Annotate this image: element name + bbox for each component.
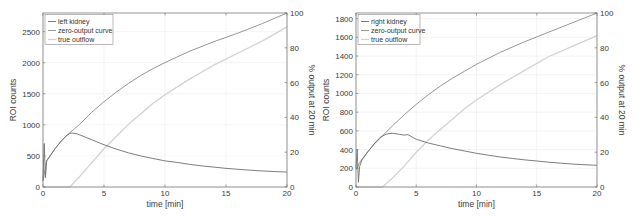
y-tick-label: 0 [36, 183, 41, 192]
y-tick-label: 2000 [22, 59, 40, 68]
x-axis-label: time [min] [458, 199, 495, 209]
y-tick-label: 1200 [335, 71, 353, 80]
legend-label: true outflow [371, 36, 408, 43]
legend: right kidney zero-output curve true outf… [358, 15, 426, 45]
left-kidney-chart: 0510152005001000150020002500020406080100… [8, 9, 317, 209]
y-right-tick-label: 100 [290, 9, 304, 18]
y-right-tick-label: 80 [290, 44, 299, 53]
x-axis-label: time [min] [147, 199, 184, 209]
x-tick-label: 0 [41, 189, 46, 198]
legend-entry-zero-output: zero-output curve [48, 27, 113, 35]
x-tick-label: 5 [414, 189, 419, 198]
legend-label: left kidney [58, 18, 90, 26]
legend-label: true outflow [58, 36, 95, 43]
y-tick-label: 0 [349, 183, 354, 192]
figure: 0510152005001000150020002500020406080100… [0, 0, 637, 219]
x-tick-label: 15 [222, 189, 231, 198]
legend: left kidney zero-output curve true outfl… [45, 15, 113, 45]
x-tick-label: 15 [532, 189, 541, 198]
x-tick-label: 10 [161, 189, 170, 198]
x-tick-label: 10 [472, 189, 481, 198]
y-right-tick-label: 20 [600, 148, 609, 157]
y-tick-label: 2500 [22, 28, 40, 37]
y-right-tick-label: 40 [290, 113, 299, 122]
x-tick-label: 0 [354, 189, 359, 198]
y-tick-label: 800 [340, 108, 354, 117]
legend-label: zero-output curve [371, 27, 426, 35]
y-tick-label: 1000 [335, 89, 353, 98]
legend-label: zero-output curve [58, 27, 113, 35]
y-tick-label: 600 [340, 127, 354, 136]
y-tick-label: 1500 [22, 90, 40, 99]
y-right-tick-label: 0 [600, 183, 605, 192]
y-axis-right-label: % output at 20 min [307, 65, 317, 136]
y-tick-label: 200 [340, 164, 354, 173]
legend-label: right kidney [371, 18, 407, 26]
x-tick-label: 5 [102, 189, 107, 198]
y-right-tick-label: 60 [290, 79, 299, 88]
y-axis-label: ROI counts [321, 79, 331, 122]
y-right-tick-label: 100 [600, 9, 614, 18]
y-right-tick-label: 0 [290, 183, 295, 192]
y-right-tick-label: 20 [290, 148, 299, 157]
y-tick-label: 1000 [22, 121, 40, 130]
y-tick-label: 400 [340, 146, 354, 155]
y-axis-right-label: % output at 20 min [617, 65, 627, 136]
right-kidney-chart: 0510152002004006008001000120014001600180… [321, 9, 627, 209]
y-tick-label: 1600 [335, 33, 353, 42]
y-right-tick-label: 60 [600, 79, 609, 88]
y-tick-label: 500 [27, 152, 41, 161]
y-axis-label: ROI counts [8, 79, 18, 122]
y-tick-label: 1400 [335, 52, 353, 61]
legend-entry-zero-output: zero-output curve [361, 27, 426, 35]
y-tick-label: 1800 [335, 15, 353, 24]
y-right-tick-label: 40 [600, 113, 609, 122]
y-right-tick-label: 80 [600, 44, 609, 53]
